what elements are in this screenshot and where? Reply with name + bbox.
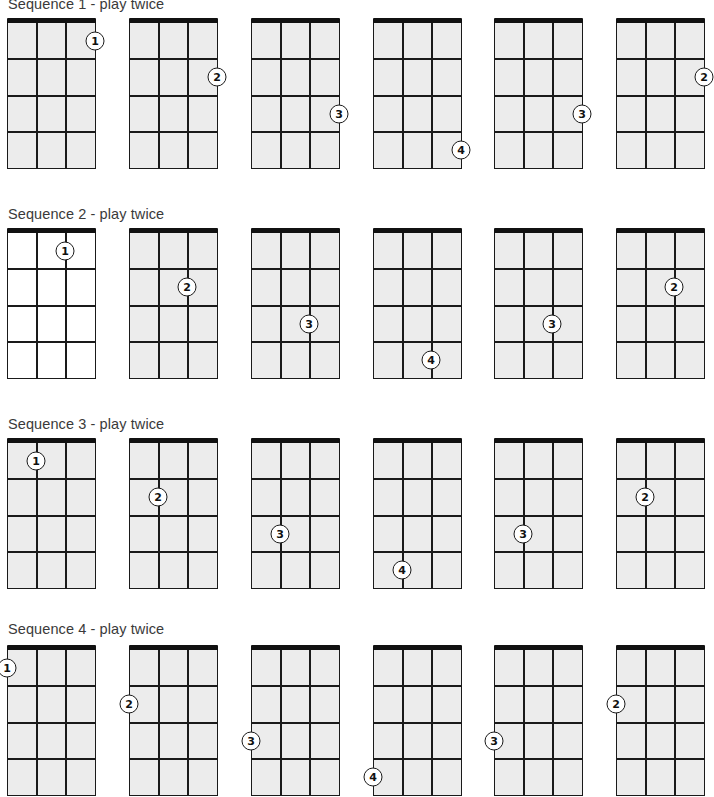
fretboard [7, 233, 96, 379]
chord-diagram: 2 [616, 438, 705, 590]
fretboard [616, 23, 705, 169]
fret-line [495, 131, 582, 133]
finger-number-icon: 3 [485, 731, 504, 750]
fret-line [8, 58, 95, 60]
finger-number-icon: 4 [393, 560, 412, 579]
finger-number-icon: 2 [636, 488, 655, 507]
fret-line [374, 551, 461, 553]
fret-line [617, 341, 704, 343]
fret-line [252, 131, 339, 133]
fretboard [129, 23, 218, 169]
fretboard [616, 650, 705, 796]
chord-diagram: 4 [373, 18, 462, 170]
fretboard [129, 650, 218, 796]
fret-line [617, 131, 704, 133]
fret-line [252, 268, 339, 270]
fret-line [8, 95, 95, 97]
finger-number-icon: 4 [422, 350, 441, 369]
fret-line [617, 685, 704, 687]
fret-line [252, 478, 339, 480]
fretboard [251, 233, 340, 379]
finger-number-icon: 2 [120, 695, 139, 714]
fret-line [130, 268, 217, 270]
fret-line [252, 722, 339, 724]
fret-line [617, 551, 704, 553]
chord-diagram: 1 [7, 228, 96, 380]
sequence-3-label: Sequence 3 - play twice [8, 416, 164, 432]
chord-diagram: 3 [494, 438, 583, 590]
finger-number-icon: 3 [242, 731, 261, 750]
fret-line [374, 685, 461, 687]
fretboard [494, 233, 583, 379]
fret-line [252, 515, 339, 517]
fret-line [130, 758, 217, 760]
fret-line [374, 341, 461, 343]
finger-number-icon: 1 [56, 242, 75, 261]
fret-line [495, 551, 582, 553]
fret-line [617, 268, 704, 270]
fret-line [617, 515, 704, 517]
fret-line [252, 341, 339, 343]
fret-line [617, 722, 704, 724]
fretboard [129, 233, 218, 379]
fretboard [7, 650, 96, 796]
fretboard [251, 443, 340, 589]
chord-diagram: 3 [251, 438, 340, 590]
chord-diagram: 1 [7, 18, 96, 170]
fret-line [8, 268, 95, 270]
sequence-2-label: Sequence 2 - play twice [8, 206, 164, 222]
fret-line [252, 551, 339, 553]
fret-line [374, 478, 461, 480]
fretboard [494, 443, 583, 589]
fret-line [495, 305, 582, 307]
fret-line [130, 551, 217, 553]
finger-number-icon: 2 [208, 68, 227, 87]
chord-diagram: 3 [494, 645, 583, 797]
fret-line [495, 685, 582, 687]
chord-diagram: 2 [129, 645, 218, 797]
fret-line [130, 341, 217, 343]
fretboard [251, 23, 340, 169]
sequence-4-label: Sequence 4 - play twice [8, 621, 164, 637]
fret-line [495, 268, 582, 270]
fretboard [373, 23, 462, 169]
finger-number-icon: 3 [573, 104, 592, 123]
fret-line [374, 722, 461, 724]
finger-number-icon: 3 [271, 524, 290, 543]
finger-number-icon: 3 [300, 314, 319, 333]
sequence-1-label: Sequence 1 - play twice [8, 0, 164, 12]
fret-line [130, 478, 217, 480]
finger-number-icon: 1 [86, 32, 105, 51]
fretboard [373, 443, 462, 589]
chord-diagram: 2 [616, 18, 705, 170]
fret-line [130, 95, 217, 97]
fret-line [617, 58, 704, 60]
chord-diagram: 4 [373, 228, 462, 380]
fretboard [373, 650, 462, 796]
fret-line [374, 515, 461, 517]
fret-line [8, 722, 95, 724]
fret-line [495, 95, 582, 97]
fret-line [8, 515, 95, 517]
fret-line [495, 478, 582, 480]
finger-number-icon: 3 [543, 314, 562, 333]
finger-number-icon: 2 [149, 488, 168, 507]
fret-line [495, 58, 582, 60]
fretboard [494, 23, 583, 169]
fret-line [495, 758, 582, 760]
fret-line [252, 95, 339, 97]
fret-line [374, 758, 461, 760]
fret-line [374, 95, 461, 97]
chord-diagram: 2 [129, 18, 218, 170]
fret-line [617, 305, 704, 307]
fret-line [8, 685, 95, 687]
finger-number-icon: 1 [27, 452, 46, 471]
finger-number-icon: 4 [452, 140, 471, 159]
fretboard [7, 443, 96, 589]
chord-diagram: 3 [251, 645, 340, 797]
chord-diagram: 4 [373, 645, 462, 797]
chord-diagram: 2 [129, 228, 218, 380]
fret-line [130, 305, 217, 307]
fret-line [374, 268, 461, 270]
finger-number-icon: 4 [364, 767, 383, 786]
